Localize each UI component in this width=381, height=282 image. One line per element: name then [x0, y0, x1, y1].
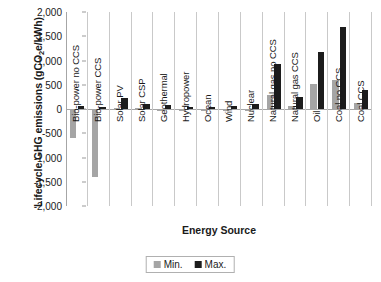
y-axis-tick-label: 2,000 [20, 7, 62, 18]
x-axis-category-label: Wind [223, 101, 234, 122]
category-group: Coal CCS [350, 12, 372, 206]
bar-chart: Lifecycle GHG emissions (gCO2e/kWh) 2,00… [0, 0, 381, 282]
y-axis-tick-labels: 2,0001,5001,0005000-500-1,000-1,500-2,00… [20, 12, 62, 206]
bar-max [318, 52, 325, 109]
x-axis-category-label: Solar PV [114, 85, 125, 122]
legend-entry[interactable]: Min. [154, 259, 183, 270]
x-axis-category-label: Geothermal [158, 73, 169, 122]
x-axis-category-label: Natural gas no CCS [267, 39, 278, 122]
x-axis-title: Energy Source [66, 224, 372, 236]
y-axis-tick-label: 500 [20, 79, 62, 90]
category-group: Bio-power CCS [88, 12, 110, 206]
category-group: Wind [219, 12, 241, 206]
category-group: Nuclear [241, 12, 263, 206]
category-group: Natural gas CCS [285, 12, 307, 206]
category-group: Hydropower [175, 12, 197, 206]
category-group: Ocean [197, 12, 219, 206]
x-axis-category-label: Hydropower [180, 72, 191, 122]
legend-entry[interactable]: Max. [195, 259, 227, 270]
y-axis-tick-label: -2,000 [20, 201, 62, 212]
y-axis-tick-label: 1,500 [20, 31, 62, 42]
chart-legend: Min.Max. [146, 256, 235, 273]
y-axis-tick-label: -1,000 [20, 152, 62, 163]
category-separator [371, 12, 372, 206]
x-axis-category-label: Solar CSP [136, 79, 147, 122]
category-group: Bio-power no CCS [66, 12, 88, 206]
x-axis-category-label: Bio-power CCS [92, 58, 103, 122]
y-axis-tick-label: 1,000 [20, 55, 62, 66]
legend-swatch-icon [154, 261, 161, 268]
y-axis-tick-label: 0 [20, 104, 62, 115]
x-axis-category-label: Nuclear [245, 90, 256, 122]
bar-min [310, 84, 317, 109]
y-axis-tick-label: -500 [20, 128, 62, 139]
x-axis-category-label: Ocean [202, 95, 213, 123]
x-axis-category-label: Bio-power no CCS [70, 45, 81, 122]
x-axis-category-label: Natural gas CCS [289, 52, 300, 122]
x-axis-category-label: Coal CCS [355, 81, 366, 122]
x-axis-category-label: Coal no CCS [333, 68, 344, 122]
legend-swatch-icon [195, 261, 202, 268]
legend-label: Min. [164, 259, 183, 270]
x-axis-category-label: Oil [311, 111, 322, 122]
category-group: Natural gas no CCS [263, 12, 285, 206]
plot-area: Bio-power no CCSBio-power CCSSolar PVSol… [66, 12, 372, 206]
category-group: Solar PV [110, 12, 132, 206]
y-axis-tick-label: -1,500 [20, 176, 62, 187]
legend-label: Max. [205, 259, 227, 270]
category-group: Geothermal [153, 12, 175, 206]
bars-layer: Bio-power no CCSBio-power CCSSolar PVSol… [66, 12, 372, 206]
category-group: Oil [306, 12, 328, 206]
category-group: Coal no CCS [328, 12, 350, 206]
category-group: Solar CSP [132, 12, 154, 206]
